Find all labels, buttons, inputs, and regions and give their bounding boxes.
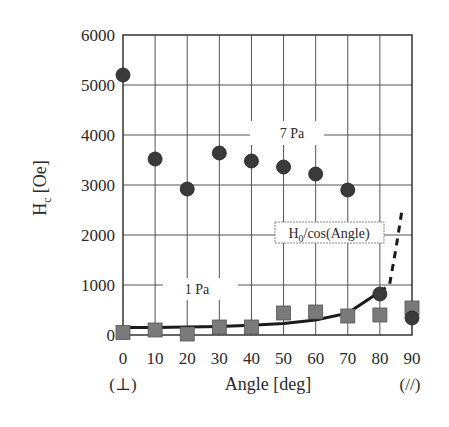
annotation-7pa: 7 Pa	[280, 126, 305, 141]
x-ticks: 0102030405060708090	[119, 349, 421, 368]
marker-square	[277, 306, 291, 320]
x-tick-label: 60	[307, 349, 324, 368]
marker-square	[148, 323, 162, 337]
x-sublabel-perpendicular: (⊥)	[109, 375, 136, 394]
x-tick-label: 90	[404, 349, 421, 368]
chart: 0100020003000400050006000 01020304050607…	[0, 0, 449, 427]
x-axis-label: Angle [deg]	[225, 374, 311, 394]
y-tick-label: 6000	[81, 26, 115, 45]
x-tick-label: 50	[275, 349, 292, 368]
marker-circle	[405, 311, 419, 325]
marker-circle	[341, 183, 355, 197]
y-tick-label: 4000	[81, 126, 115, 145]
annotation-boxes	[163, 121, 384, 300]
marker-circle	[373, 287, 387, 301]
fit-curve-dashed	[380, 208, 403, 292]
marker-circle	[180, 182, 194, 196]
x-tick-label: 10	[147, 349, 164, 368]
y-tick-label: 5000	[81, 76, 115, 95]
series-7pa-markers	[116, 68, 419, 325]
marker-square	[180, 327, 194, 341]
x-tick-label: 20	[179, 349, 196, 368]
marker-square	[116, 326, 130, 340]
y-tick-label: 1000	[81, 276, 115, 295]
x-tick-label: 70	[339, 349, 356, 368]
x-tick-label: 0	[119, 349, 128, 368]
marker-circle	[309, 167, 323, 181]
marker-square	[309, 305, 323, 319]
marker-square	[341, 309, 355, 323]
marker-square	[244, 320, 258, 334]
x-sublabel-parallel: (//)	[400, 375, 421, 394]
marker-square	[212, 320, 226, 334]
annotation-1pa: 1 Pa	[185, 282, 210, 297]
x-tick-label: 30	[211, 349, 228, 368]
marker-circle	[116, 68, 130, 82]
marker-circle	[244, 154, 258, 168]
marker-square	[373, 308, 387, 322]
y-axis-label: Hc[Oe]	[30, 160, 54, 215]
y-tick-label: 2000	[81, 226, 115, 245]
marker-circle	[148, 152, 162, 166]
x-tick-label: 40	[243, 349, 260, 368]
y-ticks: 0100020003000400050006000	[81, 26, 115, 345]
y-tick-label: 0	[107, 326, 116, 345]
marker-circle	[212, 146, 226, 160]
x-tick-label: 80	[371, 349, 388, 368]
y-tick-label: 3000	[81, 176, 115, 195]
marker-circle	[277, 160, 291, 174]
